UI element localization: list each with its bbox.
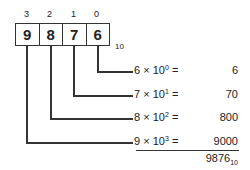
- digit-cell-ones: 6: [87, 24, 110, 45]
- digit-box: 9 8 7 6: [15, 23, 110, 46]
- value-thousands: 9000: [178, 135, 238, 147]
- value-ones: 6: [178, 64, 238, 76]
- connector-thousands-horizontal: [26, 142, 133, 144]
- total-value: 987610: [206, 152, 238, 166]
- equation-tens: 7 × 101 =: [134, 88, 178, 100]
- connector-hundreds-vertical: [50, 46, 52, 119]
- digit-cell-tens: 7: [63, 24, 87, 45]
- connector-thousands-vertical: [26, 46, 28, 143]
- connector-ones-vertical: [97, 46, 99, 72]
- equation-hundreds: 8 × 102 =: [134, 111, 178, 123]
- equation-ones: 6 × 100 =: [134, 64, 178, 76]
- base-subscript: 10: [115, 42, 124, 51]
- value-tens: 70: [178, 88, 238, 100]
- position-label-3: 3: [15, 9, 38, 19]
- digit-cell-thousands: 9: [16, 24, 40, 45]
- connector-tens-horizontal: [73, 95, 133, 97]
- value-hundreds: 800: [178, 111, 238, 123]
- connector-ones-horizontal: [97, 71, 133, 73]
- position-label-2: 2: [38, 9, 61, 19]
- equation-thousands: 9 × 103 =: [134, 135, 178, 147]
- digit-cell-hundreds: 8: [40, 24, 64, 45]
- sum-divider: [136, 150, 239, 151]
- connector-tens-vertical: [73, 46, 75, 96]
- connector-hundreds-horizontal: [50, 118, 133, 120]
- position-label-0: 0: [85, 9, 108, 19]
- position-label-1: 1: [62, 9, 85, 19]
